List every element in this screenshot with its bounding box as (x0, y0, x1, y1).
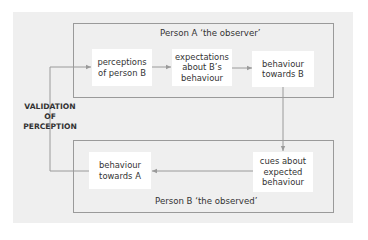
expectations-node: expectations about B’s behaviour (172, 49, 232, 86)
validation-of-perception-label: VALIDATION OF PERCEPTION (20, 102, 80, 132)
behaviour-towards-b-node: behaviour towards B (252, 51, 314, 87)
cues-about-expected-behaviour-node: cues about expected behaviour (253, 152, 313, 192)
perceptions-of-person-b-node: perceptions of person B (92, 49, 152, 86)
behaviour-towards-a-node: behaviour towards A (89, 152, 151, 189)
